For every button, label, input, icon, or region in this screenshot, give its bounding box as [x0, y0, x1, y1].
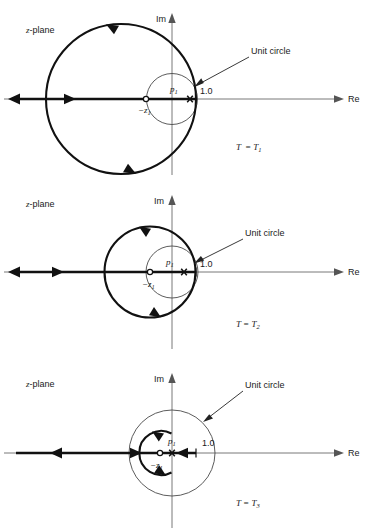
locus-arrow-left-inner — [176, 448, 188, 458]
re-axis-label: Re — [348, 267, 360, 277]
locus-arrow-circle-top — [139, 227, 151, 237]
locus-arrow-circle-top — [106, 24, 119, 34]
unit-circle-label: Unit circle — [245, 228, 285, 238]
pole-label: p1 — [165, 257, 174, 268]
re-axis-label: Re — [348, 448, 360, 458]
unit-circle-leader — [203, 391, 243, 422]
unit-value-label: 1.0 — [200, 259, 213, 269]
pole-label: p1 — [169, 84, 178, 95]
unit-circle-label: Unit circle — [245, 380, 285, 390]
zero-marker — [157, 450, 162, 455]
zero-label: −z1 — [138, 105, 151, 116]
locus-arrow-left — [50, 448, 62, 459]
sampling-label: T = T3 — [236, 498, 260, 509]
plane-label: z-plane — [25, 25, 55, 35]
zero-label: −z1 — [142, 279, 155, 290]
panel-t2: z-plane Im Re Unit circle 1.0 p1 −z1 T =… — [0, 177, 372, 354]
root-locus-figure: z-plane Im Re Unit circle 1.0 p1 −z1 T =… — [0, 0, 372, 531]
im-axis-label: Im — [156, 14, 166, 24]
unit-value-label: 1.0 — [202, 438, 215, 448]
sampling-label: T = T1 — [236, 142, 261, 153]
zero-label: −z1 — [150, 460, 163, 471]
locus-arrow-circle-bottom — [123, 164, 136, 174]
locus-arrow-circle-bottom — [149, 307, 161, 317]
plane-label: z-plane — [25, 379, 55, 389]
locus-arrow-arc-top — [152, 431, 164, 441]
unit-circle-label: Unit circle — [251, 46, 291, 56]
panel-t1: z-plane Im Re Unit circle 1.0 p1 −z1 T =… — [0, 0, 372, 177]
locus-arrow-left — [8, 267, 20, 278]
zero-marker — [143, 96, 148, 101]
locus-arrow-right — [64, 94, 76, 104]
pole-label: p1 — [167, 436, 176, 447]
locus-arrow-left — [8, 94, 20, 105]
locus-arrow-right-inner — [52, 267, 64, 277]
zero-marker — [147, 269, 152, 274]
im-axis-label: Im — [154, 196, 164, 206]
sampling-label: T = T2 — [236, 319, 260, 330]
unit-circle-leader — [194, 57, 249, 87]
im-axis-label: Im — [154, 374, 164, 384]
panel-t3: z-plane Im Re Unit circle 1.0 p1 −z1 T =… — [0, 354, 372, 531]
re-axis-label: Re — [348, 94, 360, 104]
unit-value-label: 1.0 — [200, 86, 213, 96]
plane-label: z-plane — [25, 199, 55, 209]
